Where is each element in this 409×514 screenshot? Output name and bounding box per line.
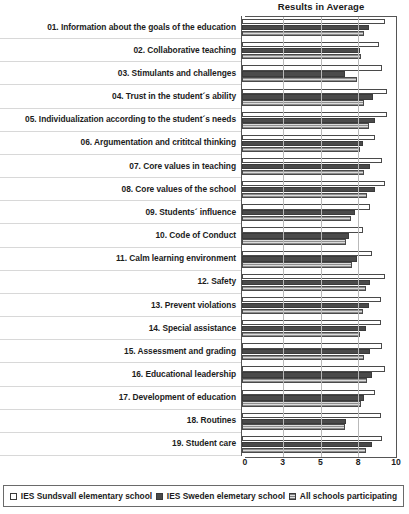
chart-row: 02. Collaborative teaching — [0, 39, 409, 62]
chart-row: 04. Trust in the student´s ability — [0, 85, 409, 108]
bar-series-2 — [242, 164, 370, 169]
bar-series-3 — [242, 401, 361, 406]
legend-label: All schools participating — [300, 491, 397, 501]
bar-series-2 — [242, 349, 370, 354]
bar-series-3 — [242, 193, 367, 198]
category-label: 03. Stimulants and challenges — [0, 62, 241, 85]
legend-label: IES Sundsvall elementary school — [21, 491, 152, 501]
chart-row: 19. Student care — [0, 433, 409, 456]
bar-group — [241, 317, 409, 340]
bar-series-3 — [242, 448, 366, 453]
bar-series-3 — [242, 100, 364, 105]
bar-group — [241, 201, 409, 224]
legend-label: IES Sweden elemetary school — [167, 491, 285, 501]
bar-series-1 — [242, 158, 382, 163]
chart-row: 01. Information about the goals of the e… — [0, 16, 409, 39]
bar-series-2 — [242, 48, 360, 53]
category-label: 10. Code of Conduct — [0, 224, 241, 247]
x-tick-label: 3 — [280, 457, 285, 467]
bar-group — [241, 271, 409, 294]
legend-swatch-icon — [156, 493, 163, 500]
bar-series-3 — [242, 262, 352, 267]
category-label: 14. Special assistance — [0, 317, 241, 340]
bar-group — [241, 109, 409, 132]
category-label: 06. Argumentation and crititcal thinking — [0, 132, 241, 155]
category-label: 12. Safety — [0, 271, 241, 294]
x-tick-label: 8 — [356, 457, 361, 467]
bar-series-1 — [242, 89, 387, 94]
x-tick-label: 0 — [243, 457, 248, 467]
bar-series-2 — [242, 210, 355, 215]
chart-row: 15. Assessment and grading — [0, 340, 409, 363]
bar-group — [241, 178, 409, 201]
category-label: 08. Core values of the school — [0, 178, 241, 201]
bar-series-1 — [242, 112, 387, 117]
bar-series-2 — [242, 94, 373, 99]
chart-row: 08. Core values of the school — [0, 178, 409, 201]
chart-row: 06. Argumentation and crititcal thinking — [0, 132, 409, 155]
chart-legend: IES Sundsvall elementary schoolIES Swede… — [3, 485, 404, 507]
bar-series-2 — [242, 326, 366, 331]
category-label: 07. Core values in teaching — [0, 155, 241, 178]
bar-series-2 — [242, 280, 370, 285]
bar-series-2 — [242, 25, 369, 30]
bar-series-3 — [242, 170, 364, 175]
bar-group — [241, 155, 409, 178]
chart-title: Results in Average — [245, 1, 397, 12]
bar-series-1 — [242, 274, 385, 279]
chart-row: 11. Calm learning environment — [0, 248, 409, 271]
bar-series-3 — [242, 147, 360, 152]
chart-row: 03. Stimulants and challenges — [0, 62, 409, 85]
bar-series-2 — [242, 419, 346, 424]
bar-series-3 — [242, 239, 346, 244]
bar-series-3 — [242, 424, 345, 429]
legend-item[interactable]: IES Sundsvall elementary school — [10, 491, 152, 501]
bar-series-2 — [242, 233, 349, 238]
legend-swatch-icon — [289, 493, 296, 500]
category-label: 04. Trust in the student´s ability — [0, 85, 241, 108]
bar-group — [241, 294, 409, 317]
x-tick-label: 5 — [318, 457, 323, 467]
bar-series-1 — [242, 251, 372, 256]
bar-series-1 — [242, 297, 381, 302]
chart-row: 12. Safety — [0, 271, 409, 294]
bar-series-1 — [242, 436, 382, 441]
bar-series-2 — [242, 187, 375, 192]
chart-row: 13. Prevent violations — [0, 294, 409, 317]
bar-group — [241, 363, 409, 386]
category-label: 16. Educational leadership — [0, 363, 241, 386]
bar-series-2 — [242, 71, 345, 76]
category-label: 01. Information about the goals of the e… — [0, 16, 241, 39]
bar-series-1 — [242, 227, 363, 232]
bar-series-3 — [242, 123, 369, 128]
x-tick-label: 10 — [391, 457, 401, 467]
legend-item[interactable]: All schools participating — [289, 491, 397, 501]
bar-group — [241, 62, 409, 85]
bar-group — [241, 16, 409, 39]
bar-group — [241, 387, 409, 410]
category-label: 15. Assessment and grading — [0, 340, 241, 363]
category-label: 05. Individualization according to the s… — [0, 109, 241, 132]
category-label: 09. Students´ influence — [0, 201, 241, 224]
bar-series-3 — [242, 355, 364, 360]
bar-series-2 — [242, 118, 375, 123]
bar-series-3 — [242, 77, 357, 82]
chart-row: 17. Development of education — [0, 387, 409, 410]
bar-series-3 — [242, 54, 361, 59]
chart-row: 14. Special assistance — [0, 317, 409, 340]
bar-series-1 — [242, 390, 375, 395]
category-label: 18. Routines — [0, 410, 241, 433]
plot-area: 01. Information about the goals of the e… — [0, 16, 409, 456]
bar-series-2 — [242, 303, 369, 308]
x-axis: 035810 — [245, 457, 397, 471]
category-label: 02. Collaborative teaching — [0, 39, 241, 62]
bar-series-2 — [242, 256, 357, 261]
bar-series-3 — [242, 31, 364, 36]
bar-series-1 — [242, 135, 375, 140]
bar-group — [241, 39, 409, 62]
bar-series-1 — [242, 181, 385, 186]
bar-series-1 — [242, 366, 385, 371]
legend-item[interactable]: IES Sweden elemetary school — [156, 491, 285, 501]
bar-series-1 — [242, 19, 385, 24]
chart-row: 16. Educational leadership — [0, 363, 409, 386]
